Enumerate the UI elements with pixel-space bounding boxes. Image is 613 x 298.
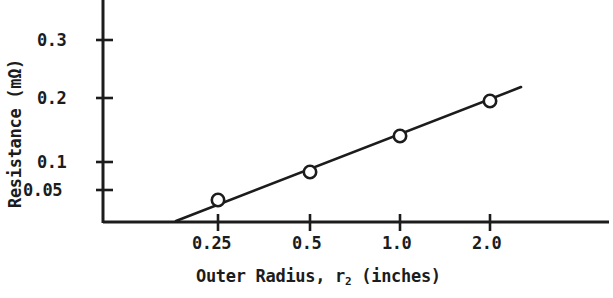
data-point-marker	[394, 130, 406, 142]
x-axis-title-subscript: 2	[345, 275, 351, 288]
x-tick-label-0.5: 0.5	[292, 233, 321, 253]
data-trend-line	[176, 87, 521, 221]
y-tick-label-0.1: 0.1	[37, 152, 66, 172]
chart-plot-area	[0, 0, 613, 298]
chart-figure: 0.3 0.2 0.1 0.05 0.25 0.5 1.0 2.0 Resist…	[0, 0, 613, 298]
x-axis-title-trail: (inches)	[351, 266, 440, 286]
y-tick-label-0.3: 0.3	[37, 30, 66, 50]
y-tick-label-0.05: 0.05	[23, 180, 62, 200]
x-tick-label-0.25: 0.25	[192, 233, 231, 253]
data-point-marker	[304, 166, 316, 178]
data-point-marker	[484, 95, 496, 107]
data-point-marker	[212, 194, 224, 206]
y-axis-title: Resistance (mΩ)	[5, 59, 25, 208]
y-tick-label-0.2: 0.2	[37, 88, 66, 108]
x-axis-title: Outer Radius, r2 (inches)	[196, 266, 441, 286]
x-axis-title-lead: Outer Radius, r	[196, 266, 345, 286]
x-tick-label-2.0: 2.0	[472, 233, 501, 253]
x-tick-label-1.0: 1.0	[382, 233, 411, 253]
